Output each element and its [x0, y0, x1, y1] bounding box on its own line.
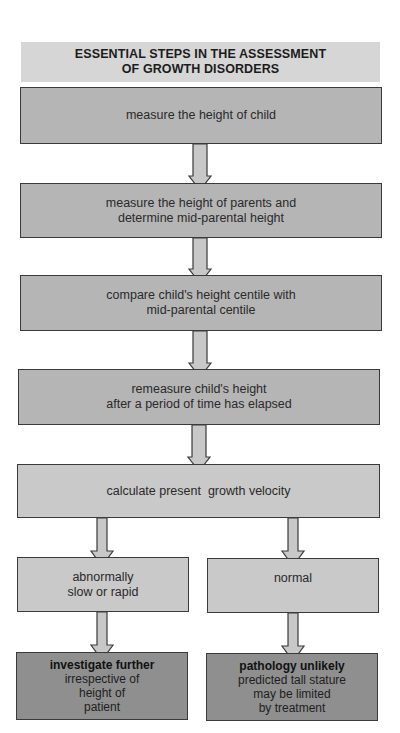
step-measure-child: measure the height of child [20, 87, 382, 144]
step-growth-velocity: calculate present growth velocity [17, 464, 380, 518]
step-measure-parents: measure the height of parents and determ… [20, 183, 382, 238]
outcome-title: pathology unlikely [239, 659, 344, 673]
step-text: measure the height of child [126, 108, 276, 123]
diagram-title: ESSENTIAL STEPS IN THE ASSESSMENT OF GRO… [21, 42, 380, 82]
title-line-1: ESSENTIAL STEPS IN THE ASSESSMENT [75, 47, 326, 62]
outcome-text: patient [84, 700, 120, 714]
condition-text: slow or rapid [68, 585, 139, 600]
title-line-2: OF GROWTH DISORDERS [75, 62, 326, 77]
condition-text: abnormally [72, 570, 133, 585]
outcome-text: may be limited [253, 687, 330, 701]
outcome-text: height of [79, 686, 125, 700]
step-text: mid-parental centile [146, 303, 255, 318]
step-text: calculate present growth velocity [106, 484, 290, 499]
outcome-investigate: investigate further irrespective of heig… [16, 652, 188, 720]
outcome-text: predicted tall stature [238, 673, 346, 687]
condition-abnormal: abnormally slow or rapid [17, 557, 189, 612]
outcome-pathology-unlikely: pathology unlikely predicted tall statur… [206, 653, 378, 721]
outcome-title: investigate further [50, 658, 155, 672]
step-text: after a period of time has elapsed [106, 397, 292, 412]
step-text: remeasure child's height [131, 382, 266, 397]
step-text: determine mid-parental height [118, 211, 284, 226]
condition-normal: normal [207, 558, 379, 613]
step-remeasure: remeasure child's height after a period … [18, 369, 380, 425]
condition-text: normal [274, 571, 312, 586]
outcome-text: by treatment [259, 701, 326, 715]
outcome-text: irrespective of [65, 672, 140, 686]
step-text: measure the height of parents and [106, 196, 296, 211]
step-compare-centile: compare child's height centile with mid-… [20, 275, 382, 331]
step-text: compare child's height centile with [106, 288, 295, 303]
